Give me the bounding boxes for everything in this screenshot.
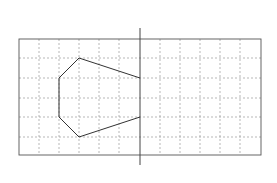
symmetry-diagram bbox=[0, 0, 277, 183]
half-polygon bbox=[59, 58, 140, 137]
